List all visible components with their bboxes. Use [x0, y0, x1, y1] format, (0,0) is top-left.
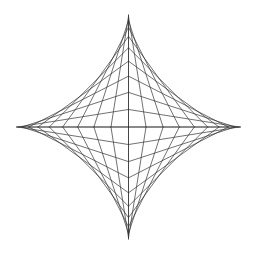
astroid-diagram: [0, 0, 253, 253]
segment-line: [129, 48, 208, 127]
segment-line: [29, 127, 129, 178]
segment-line: [129, 127, 229, 178]
segment-line: [78, 27, 129, 127]
segment-line: [129, 20, 164, 127]
segment-line: [49, 127, 128, 206]
segment-line: [129, 61, 220, 127]
segment-line: [49, 48, 128, 127]
segment-line: [78, 127, 129, 227]
segment-line: [38, 61, 129, 127]
segment-line: [29, 76, 129, 127]
segment-line: [38, 127, 129, 193]
segment-line: [129, 27, 180, 127]
segment-line: [94, 20, 129, 127]
segment-line: [94, 127, 129, 234]
line-segments: [17, 15, 241, 239]
segment-line: [129, 127, 220, 193]
segment-line: [129, 127, 164, 234]
segment-line: [129, 127, 208, 206]
segment-line: [129, 127, 180, 227]
segment-line: [129, 76, 229, 127]
